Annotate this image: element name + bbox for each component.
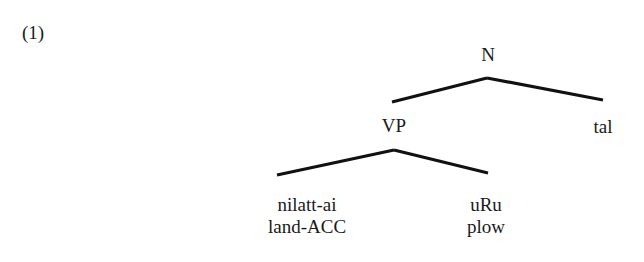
leaf-gloss: land-ACC	[268, 216, 346, 238]
node-vp: VP	[382, 115, 406, 137]
edge-n-to-vp	[392, 78, 487, 102]
leaf-uru: uRu plow	[467, 194, 505, 238]
edge-n-to-tal	[487, 78, 603, 100]
node-n: N	[481, 44, 495, 66]
node-tal: tal	[594, 116, 613, 138]
leaf-nilatt-ai: nilatt-ai land-ACC	[268, 194, 346, 238]
edge-vp-to-nilatt-ai	[277, 150, 394, 175]
leaf-word: uRu	[467, 194, 505, 216]
leaf-gloss: plow	[467, 216, 505, 238]
leaf-word: nilatt-ai	[268, 194, 346, 216]
edge-vp-to-uru	[394, 150, 488, 173]
